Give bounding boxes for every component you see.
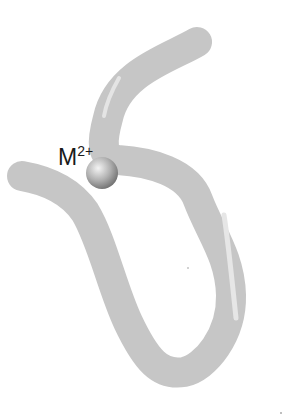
metal-ion-label: M2+	[58, 146, 93, 169]
protein-loop-diagram	[0, 0, 289, 414]
metal-ion-symbol: M	[58, 144, 77, 170]
metal-ion-charge: 2+	[77, 143, 93, 159]
speck	[187, 267, 189, 269]
protein-backbone-tube	[22, 42, 231, 373]
